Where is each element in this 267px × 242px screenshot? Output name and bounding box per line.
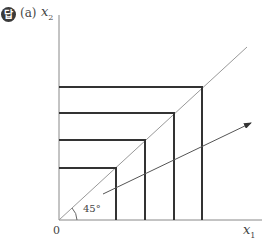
diagram-canvas	[0, 0, 267, 242]
angle-arc	[72, 208, 77, 220]
ray-45	[59, 47, 247, 220]
